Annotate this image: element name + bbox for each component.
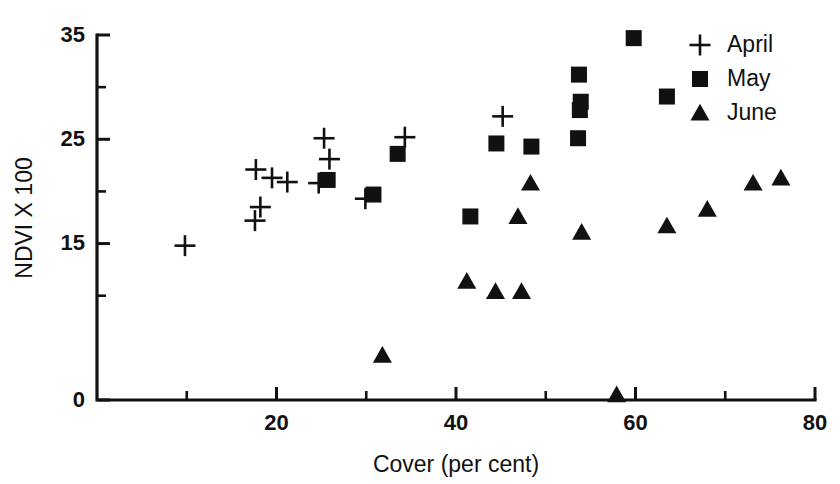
point-marker-plus — [394, 127, 415, 148]
point-marker-plus — [314, 128, 335, 149]
point-marker-square — [462, 208, 478, 224]
point-marker-triangle — [657, 217, 676, 234]
point-marker-square — [365, 187, 381, 203]
axis-ticks — [97, 35, 815, 400]
point-marker-triangle — [486, 282, 505, 299]
point-marker-plus — [492, 106, 513, 127]
point-marker-square — [570, 130, 586, 146]
point-marker-triangle — [771, 169, 790, 186]
legend-plus-icon — [690, 35, 711, 56]
y-tick-label: 35 — [61, 22, 85, 47]
legend-item-april[interactable]: April — [690, 31, 774, 57]
point-marker-triangle — [457, 272, 476, 289]
point-marker-plus — [174, 235, 195, 256]
legend: AprilMayJune — [690, 31, 777, 125]
point-marker-triangle — [572, 223, 591, 240]
legend-label: May — [727, 65, 771, 91]
point-marker-square — [573, 94, 589, 110]
legend-label: June — [727, 99, 777, 125]
axis-lines — [97, 35, 815, 400]
point-marker-plus — [319, 149, 340, 170]
point-marker-plus — [244, 210, 265, 231]
x-tick-label: 80 — [803, 410, 827, 435]
legend-item-june[interactable]: June — [690, 99, 776, 125]
point-marker-square — [523, 139, 539, 155]
axes: 015253520406080 — [61, 22, 828, 435]
x-axis-title: Cover (per cent) — [373, 451, 539, 477]
point-marker-triangle — [607, 386, 626, 403]
axis-tick-labels: 015253520406080 — [61, 22, 828, 435]
point-marker-square — [488, 135, 504, 151]
point-marker-triangle — [512, 282, 531, 299]
legend-item-may[interactable]: May — [692, 65, 771, 91]
point-marker-triangle — [508, 207, 527, 224]
x-tick-label: 20 — [264, 410, 288, 435]
point-marker-square — [320, 172, 336, 188]
x-tick-label: 60 — [623, 410, 647, 435]
scatter-plot-svg: 015253520406080 Cover (per cent) NDVI X … — [0, 0, 840, 484]
series-june — [373, 169, 791, 403]
y-tick-label: 15 — [61, 230, 85, 255]
x-tick-label: 40 — [444, 410, 468, 435]
y-tick-label: 25 — [61, 126, 85, 151]
legend-triangle-icon — [690, 104, 709, 121]
y-tick-label: 0 — [73, 387, 85, 412]
y-axis-title: NDVI X 100 — [11, 157, 37, 278]
point-marker-triangle — [521, 174, 540, 191]
point-marker-square — [659, 89, 675, 105]
point-marker-square — [626, 30, 642, 46]
legend-label: April — [727, 31, 773, 57]
point-marker-triangle — [373, 346, 392, 363]
point-marker-triangle — [744, 174, 763, 191]
legend-square-icon — [692, 71, 708, 87]
point-marker-triangle — [698, 200, 717, 217]
point-marker-plus — [250, 197, 271, 218]
point-marker-square — [390, 146, 406, 162]
point-marker-square — [571, 67, 587, 83]
series-april — [174, 106, 513, 256]
series-may — [320, 30, 675, 224]
chart-figure: 015253520406080 Cover (per cent) NDVI X … — [0, 0, 840, 484]
point-marker-plus — [277, 172, 298, 193]
